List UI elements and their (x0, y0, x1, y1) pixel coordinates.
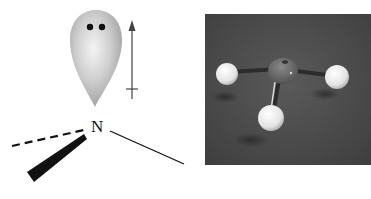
solid-bond (110, 131, 184, 164)
lone-pair-electron-icon (99, 24, 105, 30)
dipole-arrow-icon (126, 20, 138, 99)
lone-pair-electron-icon (87, 24, 93, 30)
lone-pair-orbital (70, 10, 122, 107)
outer-atom-left (216, 63, 238, 85)
ball-and-stick-model (205, 14, 371, 165)
nitrogen-atom-label: N (91, 117, 103, 136)
amine-structure-diagram: N (0, 0, 200, 199)
outer-atom-front (258, 105, 284, 131)
outer-atom-right (325, 65, 349, 89)
wedge-bond (27, 134, 87, 182)
molecular-model-photo (205, 14, 371, 165)
